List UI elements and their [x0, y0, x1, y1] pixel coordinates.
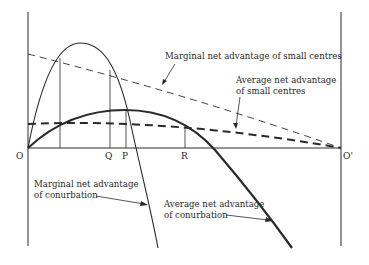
label-origin: O	[16, 151, 23, 161]
marginal-small-centres-curve	[28, 54, 341, 148]
pointer-marginal-small	[164, 64, 175, 82]
label-average-small-centres-2: of small centres	[236, 86, 306, 96]
label-r: R	[181, 151, 188, 161]
label-marginal-conurbation-1: Marginal net advantage	[34, 179, 139, 189]
label-average-conurbation-2: of conurbation	[164, 210, 228, 220]
pointer-average-conurbation	[226, 215, 268, 220]
label-q: Q	[105, 151, 112, 161]
label-average-conurbation-1: Average net advantage	[163, 199, 264, 209]
label-p: P	[122, 151, 128, 161]
marginal-conurbation-curve	[28, 43, 158, 248]
pointer-marginal-conurbation	[96, 196, 144, 204]
arrowhead-icon	[233, 123, 238, 129]
average-small-centres-curve	[28, 123, 341, 148]
label-origin-right: O'	[343, 151, 353, 161]
label-marginal-small-centres: Marginal net advantage of small centres	[165, 51, 342, 61]
arrowhead-icon	[162, 79, 167, 85]
label-marginal-conurbation-2: of conurbation	[34, 190, 98, 200]
label-average-small-centres-1: Average net advantage	[235, 75, 336, 85]
arrowhead-icon	[140, 201, 148, 206]
pointer-average-small	[236, 97, 240, 126]
diagram-canvas: O Q P R O' Marginal net advantage of sma…	[0, 0, 369, 265]
